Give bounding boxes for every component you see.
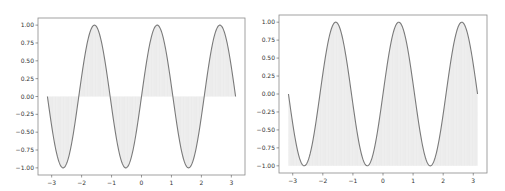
y-tick-label: −0.75 [16,146,35,153]
x-tick-label: −3 [47,179,56,186]
y-tick-label: 0.25 [21,75,35,82]
chart-figure: −3−2−10123−1.00−0.75−0.50−0.250.000.250.… [0,0,505,191]
x-tick-label: 1 [170,179,174,186]
y-tick-label: −0.50 [257,126,276,133]
y-tick-label: −1.00 [16,164,35,171]
x-tick-label: 1 [411,177,415,184]
x-tick-label: −2 [77,179,86,186]
y-tick-label: 1.00 [262,18,276,25]
y-tick-label: 0.00 [262,90,276,97]
x-tick-label: 2 [199,179,203,186]
y-tick-label: 0.50 [21,57,35,64]
x-tick-label: −1 [107,179,116,186]
x-tick-label: 0 [381,177,385,184]
x-tick-label: 0 [140,179,144,186]
y-tick-label: 0.75 [262,36,276,43]
left-subplot: −3−2−10123−1.00−0.75−0.50−0.250.000.250.… [16,18,245,186]
y-tick-label: −0.25 [257,108,276,115]
y-tick-label: 0.50 [262,54,276,61]
x-tick-label: −1 [348,177,357,184]
x-tick-label: −3 [288,177,297,184]
x-tick-label: 3 [229,179,233,186]
x-tick-label: 3 [471,177,475,184]
y-tick-label: −0.25 [16,110,35,117]
y-tick-label: 0.75 [21,39,35,46]
y-tick-label: −1.00 [257,162,276,169]
y-tick-label: −0.75 [257,144,276,151]
y-tick-label: −0.50 [16,128,35,135]
x-tick-label: −2 [318,177,327,184]
x-tick-label: 2 [441,177,445,184]
y-tick-label: 1.00 [21,21,35,28]
y-tick-label: 0.00 [21,93,35,100]
y-tick-label: 0.25 [262,72,276,79]
right-subplot: −3−2−10123−1.00−0.75−0.50−0.250.000.250.… [257,15,487,184]
